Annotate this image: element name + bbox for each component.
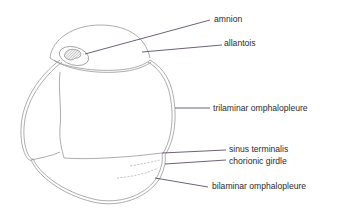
label-chorionic-girdle: chorionic girdle	[229, 157, 287, 166]
leader-bilaminar	[155, 178, 208, 187]
leader-sinus	[162, 150, 226, 153]
leader-lines	[85, 20, 226, 187]
label-bilaminar-omphalopleure: bilaminar omphalopleure	[212, 182, 306, 191]
allantois-dome	[50, 25, 151, 72]
embryo-icon	[64, 49, 81, 60]
chorionic-girdle-band	[117, 160, 160, 178]
leader-chorionic	[165, 160, 226, 164]
label-trilaminar-omphalopleure: trilaminar omphalopleure	[213, 104, 308, 113]
conceptus-outline	[21, 60, 175, 204]
label-amnion: amnion	[214, 15, 242, 24]
inner-regions	[31, 72, 162, 160]
label-sinus-terminalis: sinus terminalis	[229, 145, 288, 154]
leader-allantois	[142, 45, 222, 52]
label-allantois: allantois	[224, 39, 256, 48]
